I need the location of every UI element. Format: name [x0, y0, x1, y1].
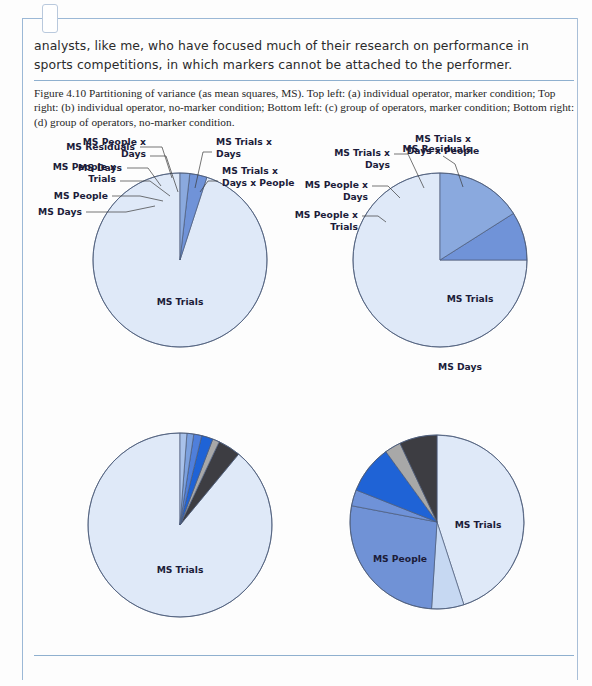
figure-pie-chart-grid: MS TrialsMS ResidualsMS DaysMS TrialsMS … — [0, 130, 592, 650]
pie-inside-label-b-0: MS Trials — [447, 293, 494, 304]
pie-callout-label-c-5: MS Trials xDays x People — [222, 165, 295, 188]
figure-4-10-svg: MS TrialsMS ResidualsMS DaysMS TrialsMS … — [0, 130, 592, 650]
page-corner-tab — [42, 4, 58, 33]
caption-divider-rule — [34, 80, 574, 81]
body-paragraph: analysts, like me, who have focused much… — [34, 36, 570, 74]
pie-callout-label-d-3: MS People xTrials — [295, 209, 359, 232]
pie-callout-label-d-4: MS Days — [438, 361, 482, 372]
pie-inside-label-c-0: MS Trials — [157, 564, 204, 575]
pie-callout-label-c-4: MS Trials xDays — [216, 136, 272, 159]
pie-callout-label-c-3: MS Days — [38, 206, 82, 217]
pie-inside-label-d-1: MS People — [373, 553, 427, 564]
book-page: analysts, like me, who have focused much… — [0, 0, 592, 686]
figure-caption: Figure 4.10 Partitioning of variance (as… — [34, 86, 578, 129]
pie-inside-label-a-0: MS Trials — [157, 296, 204, 307]
footer-divider-rule — [34, 655, 574, 656]
pie-callout-label-c-2: MS People — [54, 190, 108, 201]
pie-chart-b: MS TrialsMS ResidualsMS DaysMS TrialsMS … — [353, 143, 527, 347]
page-frame-top — [22, 18, 578, 19]
pie-callout-label-d-1: MS Trials xDays — [334, 147, 390, 170]
pie-callout-label-d-2: MS People xDays — [305, 179, 369, 202]
pie-callout-label-d-0: MS Trials xDays x People — [407, 133, 480, 156]
pie-inside-label-d-0: MS Trials — [455, 519, 502, 530]
